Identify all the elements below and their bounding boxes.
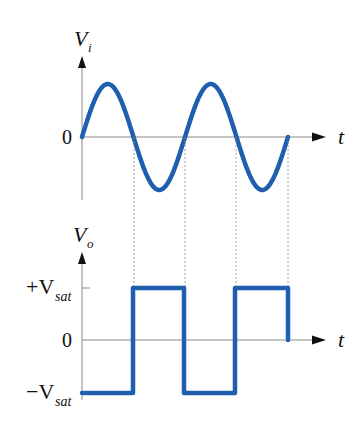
output-plot: V o +V sat 0 −V sat t <box>26 222 345 409</box>
input-y-arrow-icon <box>78 56 86 68</box>
waveform-diagram: V i 0 t V o +V sat 0 −V sat t <box>0 0 353 430</box>
input-x-label: t <box>338 124 345 149</box>
output-y-arrow-icon <box>78 252 86 264</box>
zero-crossing-guides <box>134 137 288 288</box>
input-x-arrow-icon <box>312 133 326 142</box>
neg-sat-label-sub: sat <box>55 394 72 409</box>
pos-sat-label-sub: sat <box>55 289 72 304</box>
output-zero-label: 0 <box>62 329 72 351</box>
neg-sat-label: −V <box>26 379 54 404</box>
pos-sat-label: +V <box>26 274 54 299</box>
input-zero-label: 0 <box>62 126 72 148</box>
output-x-label: t <box>338 327 345 352</box>
input-plot: V i 0 t <box>62 26 345 200</box>
output-y-label-sub: o <box>87 236 94 251</box>
output-x-arrow-icon <box>312 336 326 345</box>
input-y-label-sub: i <box>88 40 92 55</box>
